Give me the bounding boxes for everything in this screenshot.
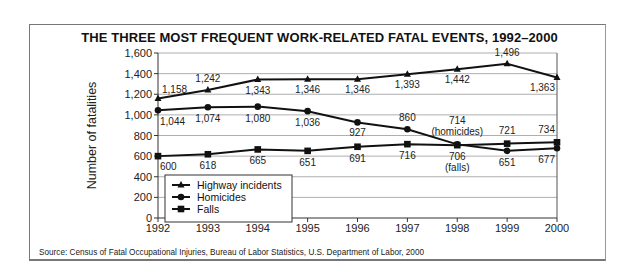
data-label: 860 xyxy=(399,112,416,123)
data-label: 1,496 xyxy=(495,47,520,58)
legend-label: Highway incidents xyxy=(197,179,282,191)
data-label: 651 xyxy=(499,157,516,168)
data-point-marker xyxy=(304,108,311,115)
x-tick-label: 1994 xyxy=(246,222,270,234)
data-label: 1,346 xyxy=(295,84,320,95)
data-label: 1,363 xyxy=(530,82,555,93)
y-tick-label: 1,400 xyxy=(124,68,152,80)
y-tick-label: 1,600 xyxy=(124,47,152,59)
data-point-marker xyxy=(454,142,461,149)
data-label: 651 xyxy=(299,157,316,168)
data-label: 706 xyxy=(449,151,466,162)
x-tick-label: 1995 xyxy=(295,222,319,234)
data-label: 716 xyxy=(399,150,416,161)
y-tick-label: 200 xyxy=(134,191,152,203)
data-point-marker xyxy=(354,119,361,126)
data-point-marker xyxy=(205,151,212,158)
data-label: 734 xyxy=(538,124,555,135)
data-label: 721 xyxy=(499,125,516,136)
data-point-marker xyxy=(554,145,561,152)
data-label: 1,074 xyxy=(195,113,220,124)
legend-marker-icon xyxy=(178,194,185,201)
data-label: 691 xyxy=(349,153,366,164)
data-label: 927 xyxy=(349,127,366,138)
y-tick-label: 400 xyxy=(134,171,152,183)
data-point-marker xyxy=(404,126,411,133)
data-point-marker xyxy=(504,60,511,67)
legend-label: Homicides xyxy=(197,191,246,203)
data-label: 677 xyxy=(538,154,555,165)
data-point-marker xyxy=(155,107,162,114)
y-tick-label: 1,000 xyxy=(124,109,152,121)
data-label: 665 xyxy=(249,155,266,166)
data-label: 1,158 xyxy=(162,84,187,95)
data-label: 714 xyxy=(449,115,466,126)
data-point-marker xyxy=(304,148,311,155)
legend-marker-icon xyxy=(178,206,185,213)
data-label: 1,242 xyxy=(195,73,220,84)
data-point-marker xyxy=(554,139,561,146)
y-axis-label: Number of fatalities xyxy=(85,82,99,190)
data-point-marker xyxy=(205,104,212,111)
data-point-marker xyxy=(155,153,162,160)
data-point-marker xyxy=(504,140,511,147)
data-point-marker xyxy=(354,143,361,150)
x-tick-label: 1997 xyxy=(395,222,419,234)
data-label: 1,442 xyxy=(445,74,470,85)
data-label: 1,393 xyxy=(395,79,420,90)
y-tick-label: 600 xyxy=(134,150,152,162)
data-label: 1,044 xyxy=(160,116,185,127)
annotation-falls: (falls) xyxy=(445,162,469,173)
legend-label: Falls xyxy=(197,203,219,215)
data-label: 1,346 xyxy=(345,84,370,95)
y-tick-label: 800 xyxy=(134,130,152,142)
data-point-marker xyxy=(404,141,411,148)
x-tick-label: 1998 xyxy=(445,222,469,234)
chart-source: Source: Census of Fatal Occupational Inj… xyxy=(39,248,424,257)
data-label: 1,343 xyxy=(245,85,270,96)
annotation-homicides: (homicides) xyxy=(431,126,483,137)
line-chart: 02004006008001,0001,2001,4001,6001992199… xyxy=(0,0,639,278)
x-tick-label: 1996 xyxy=(345,222,369,234)
y-tick-label: 1,200 xyxy=(124,88,152,100)
data-label: 1,080 xyxy=(245,113,270,124)
x-tick-label: 2000 xyxy=(545,222,569,234)
data-label: 600 xyxy=(160,161,177,172)
data-label: 618 xyxy=(200,160,217,171)
data-point-marker xyxy=(504,148,511,155)
x-tick-label: 1993 xyxy=(196,222,220,234)
x-tick-label: 1999 xyxy=(495,222,519,234)
data-point-marker xyxy=(254,103,261,110)
x-tick-label: 1992 xyxy=(146,222,170,234)
data-label: 1,036 xyxy=(295,117,320,128)
data-point-marker xyxy=(254,146,261,153)
